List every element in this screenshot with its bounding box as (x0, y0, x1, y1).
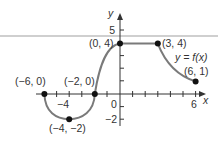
point-0-4 (117, 41, 123, 47)
point-label: (6, 1) (184, 65, 209, 77)
y-tick-label: 5 (109, 24, 115, 36)
point-neg6-0 (41, 91, 47, 97)
point-3-4 (155, 41, 161, 47)
x-tick-label: 0 (111, 98, 117, 110)
x-axis-label: x (202, 94, 209, 106)
point-label: (−2, 0) (64, 75, 95, 87)
point-label: (0, 4) (89, 37, 114, 49)
x-tick-label: −4 (57, 98, 69, 110)
point-label: (−4, −2) (49, 122, 86, 134)
x-tick-label: 6 (191, 98, 197, 110)
function-label: y = f(x) (174, 51, 207, 63)
x-axis: −4 0 6 x (36, 91, 209, 110)
y-axis-label: y (107, 7, 114, 19)
y-tick-label: −2 (105, 113, 117, 125)
function-graph: −4 0 6 x 5 −2 y (−6, 0) (−4, −2) (−2, 0)… (0, 0, 218, 143)
point-label: (−6, 0) (15, 75, 46, 87)
point-neg2-0 (92, 91, 98, 97)
point-6-1 (193, 78, 199, 84)
point-label: (3, 4) (162, 37, 187, 49)
